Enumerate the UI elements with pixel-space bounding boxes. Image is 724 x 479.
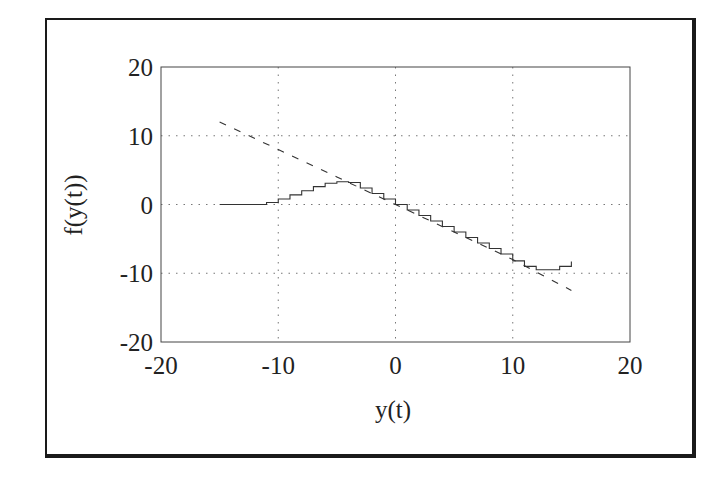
x-tick-label: 0 xyxy=(389,352,402,379)
x-tick-labels: -20-1001020 xyxy=(144,352,642,379)
y-tick-label: 10 xyxy=(128,123,153,150)
x-tick-label: -20 xyxy=(144,352,177,379)
y-tick-label: 0 xyxy=(141,192,154,219)
chart: -20-1001020 -20-1001020 y(t) f(y(t)) xyxy=(0,0,724,479)
data-series xyxy=(220,122,572,290)
x-axis-label: y(t) xyxy=(375,396,411,424)
x-tick-label: 10 xyxy=(500,352,525,379)
x-tick-label: -10 xyxy=(262,352,295,379)
y-tick-label: 20 xyxy=(128,54,153,81)
y-tick-label: -20 xyxy=(120,329,153,356)
x-tick-label: 20 xyxy=(618,352,643,379)
y-tick-labels: -20-1001020 xyxy=(120,54,153,356)
y-axis-label: f(y(t)) xyxy=(60,174,88,235)
y-tick-label: -10 xyxy=(120,260,153,287)
dashed-series-line xyxy=(220,122,572,290)
